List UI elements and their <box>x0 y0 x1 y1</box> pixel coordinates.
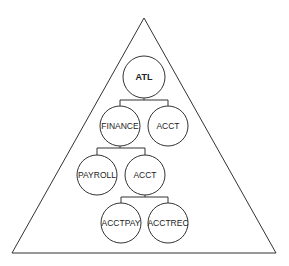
node-label: ACCT <box>156 121 179 131</box>
node-acct-mid: ACCT <box>125 155 165 195</box>
node-payroll: PAYROLL <box>77 155 117 195</box>
diagram-canvas: ATLFINANCEACCTPAYROLLACCTACCTPAYACCTREC <box>0 0 289 266</box>
node-label: FINANCE <box>101 121 139 131</box>
node-label: ACCTREC <box>147 218 188 228</box>
node-acctrec: ACCTREC <box>147 203 188 243</box>
node-label: ACCTPAY <box>102 218 141 228</box>
node-group: ATLFINANCEACCTPAYROLLACCTACCTPAYACCTREC <box>77 56 189 243</box>
node-label: ATL <box>136 72 153 82</box>
node-label: ACCT <box>133 170 156 180</box>
container-triangle <box>12 18 276 253</box>
hierarchy-diagram: ATLFINANCEACCTPAYROLLACCTACCTPAYACCTREC <box>0 0 289 266</box>
node-finance: FINANCE <box>100 106 140 146</box>
node-acct-top: ACCT <box>148 106 188 146</box>
node-atl: ATL <box>123 56 165 98</box>
node-acctpay: ACCTPAY <box>101 203 141 243</box>
node-label: PAYROLL <box>78 170 116 180</box>
